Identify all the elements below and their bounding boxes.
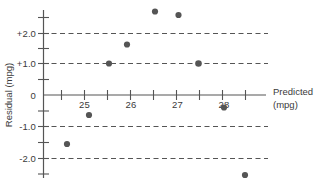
data-point [64,141,70,147]
x-axis-label-line1: Predicted [273,86,313,97]
x-tick-label-27: 27 [172,99,183,110]
data-point [195,60,202,67]
y-tick-label-plus2: +2.0 [17,28,36,39]
y-tick-label-plus1: +1.0 [17,58,36,69]
data-point [124,41,130,47]
y-tick-label-zero: 0 [31,90,36,101]
x-axis-label-line2: (mpg) [273,99,298,110]
residual-plot-svg: +2.0 +1.0 0 -1.0 -2.0 25 26 27 28 Residu… [0,0,317,186]
x-tick-label-26: 26 [126,99,137,110]
data-point [221,104,227,110]
gridlines [43,34,268,159]
data-point [242,172,248,178]
residual-plot: +2.0 +1.0 0 -1.0 -2.0 25 26 27 28 Residu… [0,0,317,186]
data-point [175,12,181,18]
x-tick-label-25: 25 [79,99,90,110]
y-tick-labels: +2.0 +1.0 0 -1.0 -2.0 [17,28,36,164]
y-axis-label: Residual (mpg) [3,63,14,127]
data-point [106,60,112,66]
y-tick-label-minus2: -2.0 [19,153,36,164]
x-tick-labels: 25 26 27 28 [79,99,229,110]
data-point [86,112,92,118]
y-tick-label-minus1: -1.0 [19,121,36,132]
data-point [152,8,158,14]
